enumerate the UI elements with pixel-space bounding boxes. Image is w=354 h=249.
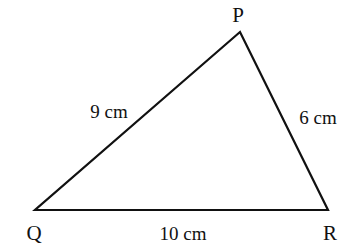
vertex-label-p: P [232,3,244,27]
triangle-pqr [35,32,328,210]
side-label-qp: 9 cm [90,101,128,122]
vertex-label-r: R [323,221,337,245]
side-label-qr: 10 cm [160,223,207,244]
triangle-diagram: P Q R 9 cm 6 cm 10 cm [0,0,354,249]
side-label-pr: 6 cm [299,107,337,128]
vertex-label-q: Q [26,221,41,245]
